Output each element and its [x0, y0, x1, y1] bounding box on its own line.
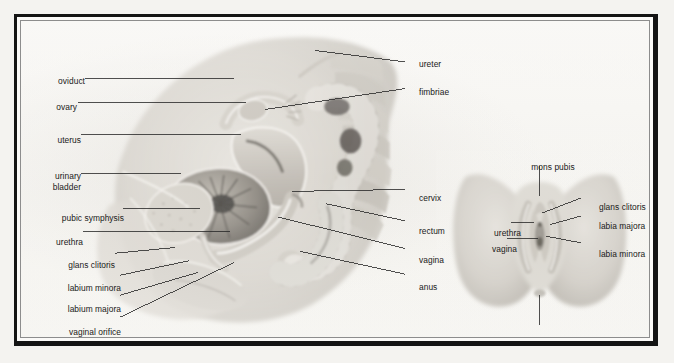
label-inset-urethra: urethra — [473, 228, 521, 239]
label-inset-labia-minora: labia minora — [599, 249, 645, 260]
label-labium-minora: labium minora — [37, 283, 121, 294]
label-ovary: ovary — [37, 102, 77, 113]
label-glans-clitoris: glans clitoris — [37, 260, 115, 271]
label-oviduct: oviduct — [37, 76, 85, 87]
label-vagina: vagina — [419, 255, 444, 266]
label-inset-mons-pubis: mons pubis — [531, 162, 574, 173]
label-urinary-bladder-line2: bladder — [53, 182, 81, 192]
label-rectum: rectum — [419, 226, 445, 237]
label-inset-vagina: vagina — [473, 244, 517, 255]
figure-plate: oviduct ovary uterus urinary bladder pub… — [21, 21, 649, 337]
screenshot-root: oviduct ovary uterus urinary bladder pub… — [0, 0, 674, 363]
label-cervix: cervix — [419, 193, 441, 204]
label-uterus: uterus — [37, 135, 81, 146]
perineum-illustration — [436, 150, 650, 338]
label-labium-majora: labium majora — [37, 304, 121, 315]
label-urinary-bladder: urinary bladder — [37, 171, 81, 192]
plate-frame-mat: oviduct ovary uterus urinary bladder pub… — [17, 17, 653, 341]
label-inset-glans-clitoris: glans clitoris — [599, 202, 646, 213]
label-anus: anus — [419, 282, 437, 293]
plate-frame-outer: oviduct ovary uterus urinary bladder pub… — [14, 14, 658, 346]
label-ureter: ureter — [419, 59, 441, 70]
label-urinary-bladder-line1: urinary — [55, 171, 81, 181]
plate-frame-rule: oviduct ovary uterus urinary bladder pub… — [20, 20, 650, 338]
label-urethra: urethra — [37, 237, 83, 248]
label-inset-labia-majora: labia majora — [599, 221, 645, 232]
label-vaginal-orifice: vaginal orifice — [37, 327, 121, 338]
label-pubic-symphysis: pubic symphysis — [37, 213, 124, 224]
label-fimbriae: fimbriae — [419, 87, 449, 98]
